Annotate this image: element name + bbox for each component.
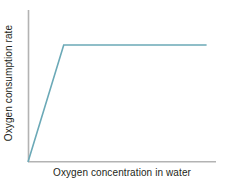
plot-area [0, 0, 228, 186]
x-axis-title: Oxygen concentration in water [28, 167, 216, 178]
chart-figure: Oxygen consumption rate Oxygen concentra… [0, 0, 228, 186]
data-series-line [28, 45, 207, 162]
y-axis-title: Oxygen consumption rate [3, 8, 17, 158]
